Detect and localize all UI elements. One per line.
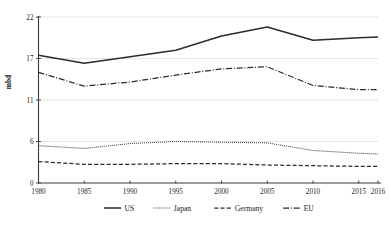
y-tick-label: 22 [26,14,34,22]
data-series [39,27,379,166]
legend-label: US [125,204,135,213]
x-tick-label: 2015 [352,188,367,196]
legend-label: Japan [174,204,191,213]
y-tick-label: 11 [27,97,34,105]
series-line-eu [39,67,379,90]
line-chart: 06111722 1980198519901995200020052010201… [0,0,391,228]
y-axis-tick-labels: 06111722 [26,14,34,188]
y-tick-label: 0 [30,180,34,188]
x-tick-label: 2005 [260,188,275,196]
y-axis-title-text: mbd [4,74,13,89]
x-tick-label: 1995 [169,188,184,196]
legend-item-us[interactable]: US [104,204,134,213]
chart-legend: USJapanGermanyEU [104,204,314,213]
x-tick-label: 1990 [123,188,138,196]
legend-item-germany[interactable]: Germany [214,204,263,213]
series-line-japan [39,142,379,154]
legend-label: Germany [235,204,263,213]
y-tick-label: 6 [30,138,34,146]
y-axis-title: mbd [4,74,13,89]
x-axis-tick-labels: 198019851990199520002005201020152016 [31,188,385,196]
x-tick-label: 2016 [371,188,386,196]
gridlines [39,17,379,142]
series-line-germany [39,162,379,167]
x-tick-label: 2010 [306,188,321,196]
legend-item-japan[interactable]: Japan [153,204,191,213]
axes [39,16,382,183]
y-tick-label: 17 [26,55,34,63]
legend-label: EU [304,204,315,213]
series-line-us [39,27,379,63]
x-tick-label: 1980 [31,188,46,196]
x-tick-label: 2000 [214,188,229,196]
chart-canvas: 06111722 1980198519901995200020052010201… [0,0,391,228]
legend-item-eu[interactable]: EU [283,204,314,213]
x-tick-label: 1985 [77,188,92,196]
